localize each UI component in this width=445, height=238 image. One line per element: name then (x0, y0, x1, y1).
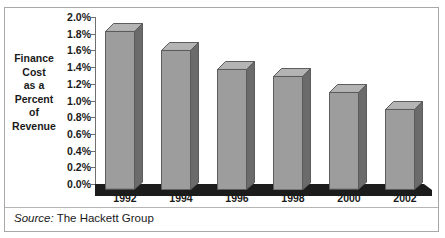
source-note: Source: The Hackett Group (14, 212, 154, 224)
y-axis-title-line: Finance (5, 52, 63, 66)
y-axis-title-line: Cost (5, 66, 63, 80)
y-axis-tick-label: 0.8% (61, 111, 91, 123)
y-axis-tick-label: 0.4% (61, 145, 91, 157)
bar-3d-body[interactable] (105, 23, 143, 190)
bar-3d-body[interactable] (385, 101, 423, 190)
bar-side-face (302, 68, 310, 189)
y-axis-tick-labels: 0.0%0.2%0.4%0.6%0.8%1.0%1.2%1.4%1.6%1.8%… (61, 8, 91, 207)
bar-series (95, 8, 432, 207)
bar-front-face (162, 50, 191, 189)
bar-front-face (106, 32, 135, 190)
bar-3d[interactable] (217, 61, 247, 190)
x-axis-tick-labels: 199219941996199820002002 (95, 192, 432, 208)
source-value: The Hackett Group (57, 212, 154, 224)
y-axis-title-line: of (5, 106, 63, 120)
y-axis-tick-label: 1.2% (61, 78, 91, 90)
y-axis-title-line: Revenue (5, 120, 63, 134)
y-axis-title-line: as a (5, 79, 63, 93)
bar-3d[interactable] (105, 23, 135, 190)
bar-3d[interactable] (273, 68, 303, 190)
bar-3d[interactable] (329, 84, 359, 190)
bar-3d-body[interactable] (161, 42, 199, 190)
bar-front-face (218, 69, 247, 189)
y-axis-tick-label: 1.0% (61, 95, 91, 107)
bar-front-face (274, 76, 303, 189)
bar-side-face (414, 102, 422, 190)
bar-front-face (386, 110, 415, 190)
x-axis-tick-label: 2000 (321, 192, 377, 204)
bar-front-face (330, 93, 359, 190)
x-axis-tick-label: 1998 (265, 192, 321, 204)
y-axis-title: Finance Cost as a Percent of Revenue (5, 52, 63, 134)
bar-side-face (190, 42, 198, 189)
y-axis-tick-label: 1.4% (61, 61, 91, 73)
plot-area: Finance Cost as a Percent of Revenue 0.0… (5, 8, 438, 207)
chart-panel: Finance Cost as a Percent of Revenue 0.0… (4, 7, 439, 232)
bar-3d-body[interactable] (329, 84, 367, 190)
bar-side-face (358, 85, 366, 190)
bar-3d-body[interactable] (273, 68, 311, 190)
y-axis-tick-label: 0.0% (61, 178, 91, 190)
bar-3d[interactable] (161, 42, 191, 190)
x-axis-tick-label: 1994 (153, 192, 209, 204)
x-axis-tick-label: 2002 (377, 192, 433, 204)
x-axis-tick-label: 1992 (97, 192, 153, 204)
footer-separator (5, 207, 438, 208)
bar-3d[interactable] (385, 101, 415, 190)
bar-3d-body[interactable] (217, 61, 255, 190)
y-axis-tick-label: 0.6% (61, 128, 91, 140)
y-axis-tick-label: 1.6% (61, 44, 91, 56)
y-axis-title-line: Percent (5, 93, 63, 107)
y-axis-tick-label: 1.8% (61, 28, 91, 40)
y-axis-tick-label: 0.2% (61, 161, 91, 173)
bar-side-face (134, 24, 142, 190)
source-label: Source: (14, 212, 54, 224)
x-axis-tick-label: 1996 (209, 192, 265, 204)
y-axis-tick-label: 2.0% (61, 11, 91, 23)
bar-side-face (246, 61, 254, 189)
